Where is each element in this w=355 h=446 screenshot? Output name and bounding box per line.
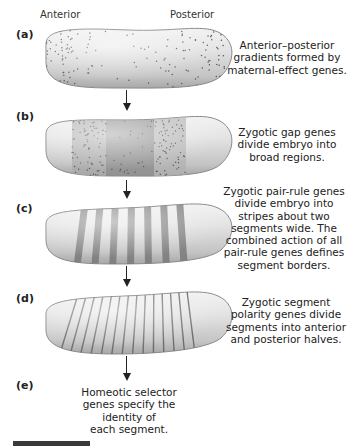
panel-label-c: (c) (16, 202, 33, 215)
embryo-d (36, 288, 236, 360)
embryo-b (36, 112, 236, 182)
caption-d: Zygotic segment polarity genes divide se… (218, 296, 354, 345)
panel-label-e: (e) (16, 379, 34, 392)
caption-e: Homeotic selector genes specify the iden… (74, 386, 184, 435)
embryo-a (36, 22, 236, 94)
embryo-c (36, 200, 236, 270)
footer-bar (13, 441, 90, 446)
caption-c: Zygotic pair-rule genes divide embryo in… (214, 185, 354, 271)
panel-label-b: (b) (16, 110, 34, 123)
caption-b: Zygotic gap genes divide embryo into bro… (222, 126, 352, 163)
panel-label-a: (a) (16, 28, 33, 41)
anterior-label: Anterior (40, 9, 80, 20)
posterior-label: Posterior (170, 9, 214, 20)
caption-a: Anterior–posterior gradients formed by m… (222, 39, 352, 76)
panel-label-d: (d) (16, 292, 34, 305)
